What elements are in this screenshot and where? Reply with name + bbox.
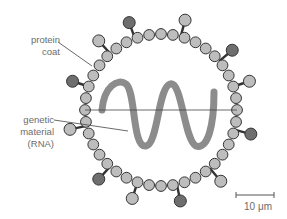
rna-strand [102, 82, 214, 146]
scale-label: 10 μm [243, 201, 273, 213]
scale-bar [236, 192, 274, 198]
genetic-material-label: genetic material (RNA) [4, 114, 54, 150]
virus-diagram [0, 0, 287, 219]
protein-coat-leader [58, 42, 92, 66]
protein-coat-label: protein coat [16, 34, 60, 58]
